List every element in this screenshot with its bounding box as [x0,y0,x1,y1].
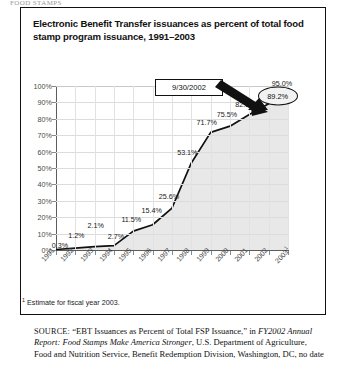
y-axis-tick-label: 30% [38,196,52,205]
y-axis-tick-label: 90% [38,98,52,107]
gridline-vertical [75,86,76,250]
x-axis-tick [95,251,96,255]
footnote-text: Estimate for fiscal year 2003. [27,298,120,307]
data-label: 15.4% [141,205,161,214]
x-axis-tick [249,251,250,255]
gridline-vertical [133,86,134,250]
x-axis-tick [191,251,192,255]
x-axis-tick [133,251,134,255]
gridline-vertical [172,86,173,250]
footnote-marker: 1 [22,297,25,303]
x-axis-tick [211,251,212,255]
x-axis-labels: 1991199219931994199519961997199819992000… [56,258,296,292]
data-label: 71.7% [196,118,216,127]
gridline-vertical [249,86,250,250]
y-axis-tick [52,102,56,103]
data-label: 11.5% [121,215,141,224]
y-axis-tick [52,184,56,185]
gridline-vertical [211,86,212,250]
y-axis-tick [52,168,56,169]
y-axis-tick [52,217,56,218]
y-axis-tick [52,86,56,87]
figure-title: Electronic Benefit Transfer issuances as… [33,18,315,43]
data-label: 2.7% [108,231,124,240]
data-label: 75.5% [217,110,237,119]
source-divider [22,320,152,321]
y-axis-tick [52,119,56,120]
data-label: 0.3% [52,240,68,249]
callout-box: 9/30/2002 [155,79,223,96]
x-axis-tick [269,251,270,255]
figure-footnote: 1 Estimate for fiscal year 2003. [22,296,322,307]
y-axis-tick-label: 50% [38,164,52,173]
y-axis-tick [52,152,56,153]
y-axis-tick-label: 70% [38,131,52,140]
x-axis-tick [56,251,57,255]
source-part1: “EBT Issuances as Percent of Total FSP I… [70,326,258,336]
y-axis-tick-label: 100% [34,82,52,91]
y-axis-tick-label: 20% [38,213,52,222]
y-axis-tick [52,201,56,202]
gridline-vertical [114,86,115,250]
y-axis-tick-label: 80% [38,114,52,123]
figure-source: SOURCE: “EBT Issuances as Percent of Tot… [34,326,326,360]
data-label: 95.0% [272,79,292,88]
data-label: 53.1% [177,147,197,156]
page-top-fragment: FOOD STAMPS [10,0,130,6]
gridline-vertical [191,86,192,250]
gridline-vertical [153,86,154,250]
x-axis-tick [114,251,115,255]
y-axis-tick-label: 10% [38,229,52,238]
y-axis-tick [52,234,56,235]
y-axis-labels: 0%10%20%30%40%50%60%70%80%90%100% [22,86,52,250]
data-label: 2.1% [87,220,103,229]
y-axis-tick-label: 60% [38,147,52,156]
x-axis-tick [153,251,154,255]
highlighted-data-label: 89.2% [258,86,298,105]
source-prefix: SOURCE: [34,327,70,336]
data-label: 82.6% [235,99,255,108]
x-axis-tick [75,251,76,255]
y-axis-tick [52,135,56,136]
data-label: 25.6% [159,192,179,201]
data-label: 1.2% [68,231,84,240]
gridline-vertical [269,86,270,250]
gridline-vertical [288,86,289,250]
y-axis-tick-label: 40% [38,180,52,189]
x-axis-tick [230,251,231,255]
x-axis-tick [172,251,173,255]
